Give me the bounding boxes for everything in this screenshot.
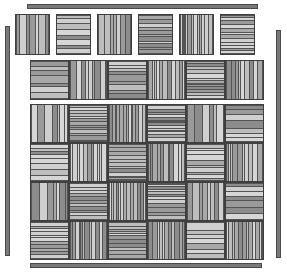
tile-vertical-stripes bbox=[108, 104, 147, 143]
tile-horizontal-stripes bbox=[186, 143, 225, 182]
tile-horizontal-stripes bbox=[30, 143, 69, 182]
stripe-canvas bbox=[180, 15, 213, 54]
tile-vertical-stripes bbox=[147, 143, 186, 182]
tile-vertical-stripes bbox=[30, 104, 69, 143]
stripe-canvas bbox=[226, 183, 263, 220]
main-weave-grid bbox=[30, 104, 264, 260]
stripe-canvas bbox=[148, 105, 185, 142]
tile-vertical-stripes bbox=[108, 182, 147, 221]
stripe-canvas bbox=[187, 222, 224, 259]
top-tile-strip bbox=[15, 14, 255, 55]
tile-vertical-stripes bbox=[225, 143, 264, 182]
tile-vertical-stripes bbox=[69, 221, 108, 260]
stripe-canvas bbox=[31, 105, 68, 142]
stripe-canvas bbox=[187, 61, 224, 99]
tile-horizontal-stripes bbox=[30, 60, 69, 100]
stripe-canvas bbox=[148, 183, 185, 220]
tile-vertical-stripes bbox=[186, 182, 225, 221]
stripe-canvas bbox=[70, 144, 107, 181]
tile-vertical-stripes bbox=[30, 182, 69, 221]
tile-vertical-stripes bbox=[97, 14, 132, 55]
tile-horizontal-stripes bbox=[108, 221, 147, 260]
tile-vertical-stripes bbox=[225, 221, 264, 260]
stripe-canvas bbox=[109, 144, 146, 181]
tile-horizontal-stripes bbox=[56, 14, 91, 55]
stripe-canvas bbox=[31, 222, 68, 259]
tile-horizontal-stripes bbox=[108, 143, 147, 182]
tile-vertical-stripes bbox=[186, 104, 225, 143]
tile-vertical-stripes bbox=[15, 14, 50, 55]
tile-horizontal-stripes bbox=[69, 182, 108, 221]
stripe-canvas bbox=[187, 183, 224, 220]
stripe-canvas bbox=[70, 183, 107, 220]
stripe-canvas bbox=[139, 15, 172, 54]
stripe-canvas bbox=[109, 105, 146, 142]
tile-horizontal-stripes bbox=[186, 60, 225, 100]
stripe-canvas bbox=[31, 183, 68, 220]
tile-horizontal-stripes bbox=[225, 104, 264, 143]
stripe-canvas bbox=[226, 61, 263, 99]
stripe-canvas bbox=[109, 61, 146, 99]
tile-horizontal-stripes bbox=[69, 104, 108, 143]
tile-vertical-stripes bbox=[179, 14, 214, 55]
tile-horizontal-stripes bbox=[30, 221, 69, 260]
tile-vertical-stripes bbox=[225, 60, 264, 100]
stripe-canvas bbox=[16, 15, 49, 54]
tile-vertical-stripes bbox=[69, 143, 108, 182]
middle-tile-band bbox=[30, 60, 264, 100]
stripe-canvas bbox=[221, 15, 254, 54]
tile-horizontal-stripes bbox=[147, 104, 186, 143]
tile-vertical-stripes bbox=[69, 60, 108, 100]
stripe-canvas bbox=[226, 144, 263, 181]
tile-horizontal-stripes bbox=[220, 14, 255, 55]
stripe-canvas bbox=[98, 15, 131, 54]
right-rule bbox=[276, 30, 281, 258]
stripe-canvas bbox=[226, 222, 263, 259]
stripe-canvas bbox=[31, 61, 68, 99]
bottom-rule bbox=[30, 263, 262, 268]
tile-horizontal-stripes bbox=[225, 182, 264, 221]
stripe-canvas bbox=[148, 144, 185, 181]
stripe-canvas bbox=[70, 222, 107, 259]
stripe-canvas bbox=[187, 105, 224, 142]
stripe-canvas bbox=[31, 144, 68, 181]
tile-horizontal-stripes bbox=[138, 14, 173, 55]
tile-horizontal-stripes bbox=[108, 60, 147, 100]
stripe-canvas bbox=[148, 222, 185, 259]
tile-horizontal-stripes bbox=[147, 182, 186, 221]
stripe-canvas bbox=[226, 105, 263, 142]
stripe-canvas bbox=[70, 105, 107, 142]
stripe-canvas bbox=[187, 144, 224, 181]
texture-figure bbox=[0, 0, 287, 272]
stripe-canvas bbox=[148, 61, 185, 99]
tile-vertical-stripes bbox=[147, 60, 186, 100]
stripe-canvas bbox=[70, 61, 107, 99]
left-rule bbox=[5, 26, 10, 256]
stripe-canvas bbox=[57, 15, 90, 54]
tile-vertical-stripes bbox=[147, 221, 186, 260]
top-rule bbox=[27, 4, 258, 9]
tile-horizontal-stripes bbox=[186, 221, 225, 260]
stripe-canvas bbox=[109, 222, 146, 259]
stripe-canvas bbox=[109, 183, 146, 220]
